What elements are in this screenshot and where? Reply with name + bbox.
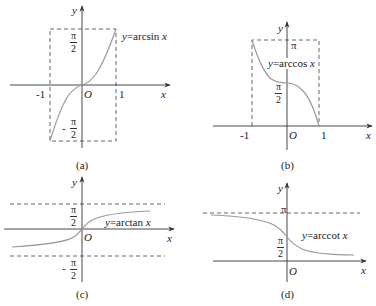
function-label-arcsin: y=arcsin x [122, 31, 167, 42]
y-axis-label: y [72, 177, 77, 188]
y-tick-neg-sign: - [62, 262, 66, 274]
panel-a-graph [10, 6, 170, 148]
x-tick-neg1: -1 [36, 89, 45, 100]
function-label-arctan: y=arctan x [105, 217, 151, 228]
x-axis-label: x [366, 130, 371, 141]
y-tick-pi: π [281, 204, 287, 215]
origin-label: O [84, 232, 92, 243]
arccos-curve [252, 40, 319, 126]
function-label-arccot: y=arccot x [302, 230, 348, 241]
caption-b: (b) [281, 159, 294, 171]
y-tick-pi-over-2: π 2 [275, 82, 282, 105]
panel-c-graph [4, 177, 174, 282]
x-axis-label: x [167, 233, 172, 244]
y-tick-pi: π [291, 40, 297, 51]
y-tick-neg-pi-over-2: π 2 [70, 117, 77, 140]
x-axis-label: x [161, 89, 166, 100]
origin-label: O [289, 266, 297, 277]
x-tick-1: 1 [321, 130, 327, 141]
y-tick-neg-sign: - [62, 122, 66, 134]
caption-d: (d) [281, 288, 294, 300]
graph-lines [0, 0, 376, 306]
x-tick-neg1: -1 [240, 130, 249, 141]
caption-a: (a) [76, 159, 88, 171]
y-tick-pi-over-2: π 2 [70, 205, 77, 228]
inverse-trig-figure: y x O -1 1 π 2 - π 2 y=arcsin x (a) y x … [0, 0, 376, 306]
function-label-arccos: y=arccos x [268, 58, 315, 69]
y-axis-label: y [72, 5, 77, 16]
y-tick-pi-over-2: π 2 [70, 31, 77, 54]
y-tick-neg-pi-over-2: π 2 [70, 258, 77, 281]
x-tick-1: 1 [119, 89, 125, 100]
y-axis-label: y [278, 183, 283, 194]
y-tick-pi-over-2: π 2 [277, 236, 284, 259]
caption-c: (c) [76, 288, 88, 300]
origin-label: O [84, 89, 92, 100]
origin-label: O [289, 130, 297, 141]
y-axis-label: y [278, 23, 283, 34]
x-axis-label: x [361, 265, 366, 276]
